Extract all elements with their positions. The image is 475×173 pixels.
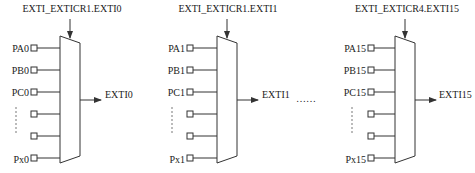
exti-mux-diagram: EXTI_EXTICR1.EXTI0 PA0 PB0 PC0 Px0 bbox=[0, 0, 475, 173]
input-label: PC0 bbox=[12, 87, 29, 98]
mux-trapezoid bbox=[60, 36, 80, 163]
mux-trapezoid bbox=[395, 36, 415, 163]
input-label: PC15 bbox=[344, 87, 366, 98]
select-label: EXTI_EXTICR1.EXTI1 bbox=[178, 3, 277, 14]
block-ellipsis: …… bbox=[296, 93, 316, 104]
mux-block-exti0: EXTI_EXTICR1.EXTI0 PA0 PB0 PC0 Px0 bbox=[12, 3, 133, 165]
select-label: EXTI_EXTICR1.EXTI0 bbox=[22, 3, 121, 14]
input-label: Px1 bbox=[169, 154, 185, 165]
input-label: PB1 bbox=[168, 65, 185, 76]
vertical-ellipsis-icon bbox=[15, 107, 16, 132]
input-label: Px0 bbox=[13, 154, 29, 165]
mux-block-exti1: EXTI_EXTICR1.EXTI1 PA1 PB1 PC1 Px1 bbox=[168, 3, 290, 165]
input-label: PA1 bbox=[168, 43, 185, 54]
input-label: PC1 bbox=[168, 87, 185, 98]
input-label: Px15 bbox=[345, 154, 366, 165]
input-pins bbox=[368, 45, 395, 161]
input-label: PA15 bbox=[344, 43, 366, 54]
select-label: EXTI_EXTICR4.EXTI15 bbox=[355, 3, 459, 14]
input-label: PA0 bbox=[12, 43, 29, 54]
input-label: PB0 bbox=[12, 65, 29, 76]
output-label: EXTI0 bbox=[105, 89, 133, 100]
input-pins bbox=[31, 45, 60, 161]
input-label: PB15 bbox=[344, 65, 366, 76]
output-label: EXTI1 bbox=[262, 89, 290, 100]
mux-block-exti15: EXTI_EXTICR4.EXTI15 PA15 PB15 PC15 Px15 bbox=[344, 3, 472, 165]
input-pins bbox=[187, 45, 217, 161]
output-label: EXTI15 bbox=[439, 89, 472, 100]
vertical-ellipsis-icon bbox=[171, 107, 172, 132]
mux-trapezoid bbox=[217, 36, 237, 163]
vertical-ellipsis-icon bbox=[351, 107, 352, 132]
